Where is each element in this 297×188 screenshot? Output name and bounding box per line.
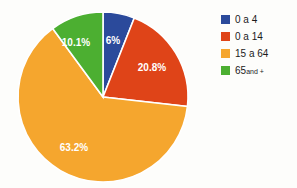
legend-swatch-icon: [221, 32, 230, 41]
legend-swatch-icon: [221, 49, 230, 58]
pie-data-label: 20.8%: [138, 62, 166, 73]
legend-item-0-a-4[interactable]: 0 a 4: [221, 11, 295, 28]
legend-item-15-a-64[interactable]: 15 a 64: [221, 45, 295, 62]
pie-chart: 6%20.8%63.2%10.1% 0 a 4 0 a 14 15 a 64 6…: [0, 0, 297, 188]
pie-data-label: 10.1%: [62, 37, 90, 48]
pie-svg: 6%20.8%63.2%10.1%: [0, 0, 210, 188]
pie-slice-group: [18, 12, 188, 182]
legend-item-label: 65and +: [235, 65, 264, 77]
legend-swatch-icon: [221, 66, 230, 75]
legend-item-label: 0 a 4: [235, 14, 257, 25]
legend-item-label: 15 a 64: [235, 48, 268, 59]
pie-plot-area: 6%20.8%63.2%10.1%: [0, 0, 210, 188]
legend-item-label: 0 a 14: [235, 31, 263, 42]
pie-data-label: 6%: [106, 35, 121, 46]
legend-item-label-suffix: and +: [246, 68, 264, 75]
legend-item-65-and-plus[interactable]: 65and +: [221, 62, 295, 79]
pie-data-label: 63.2%: [60, 142, 88, 153]
legend-swatch-icon: [221, 15, 230, 24]
chart-legend: 0 a 4 0 a 14 15 a 64 65and +: [221, 11, 295, 79]
legend-item-0-a-14[interactable]: 0 a 14: [221, 28, 295, 45]
